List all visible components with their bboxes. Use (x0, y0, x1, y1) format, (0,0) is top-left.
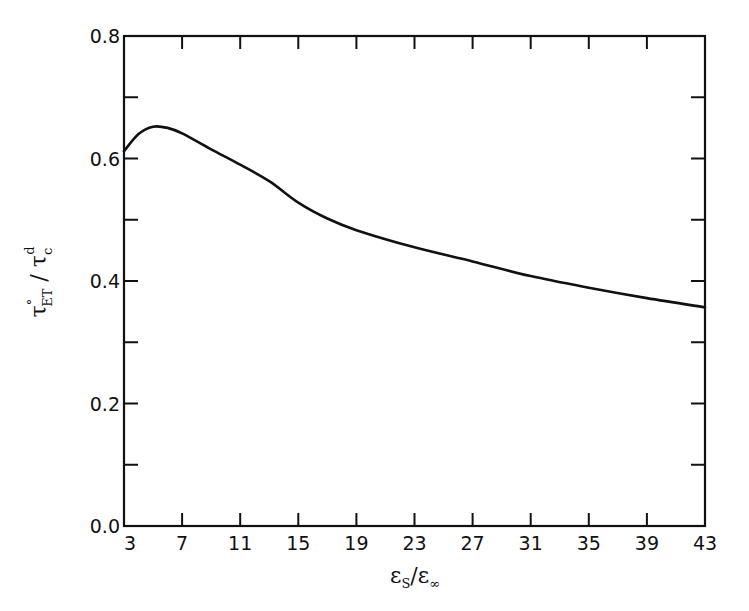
x-tick-label: 11 (228, 532, 252, 554)
x-tick-label: 31 (519, 532, 543, 554)
y-tick-label: 0.2 (90, 393, 120, 415)
x-tick-label: 39 (635, 532, 659, 554)
x-tick-label: 19 (344, 532, 368, 554)
data-curve (124, 126, 705, 307)
y-tick-label: 0.6 (90, 148, 120, 170)
x-tick-label: 3 (124, 532, 136, 554)
x-axis-label: εS/ε∞ (390, 563, 440, 591)
y-tick-label: 0.8 (90, 25, 120, 47)
y-tick-label: 0.0 (90, 515, 120, 537)
series-line (124, 126, 705, 307)
y-axis-label: τ°ET / τcd (22, 246, 55, 317)
y-tick-label: 0.4 (90, 270, 120, 292)
x-tick-label: 27 (461, 532, 485, 554)
x-tick-label: 7 (176, 532, 188, 554)
x-tick-label: 23 (402, 532, 426, 554)
x-tick-label: 15 (286, 532, 310, 554)
plot-border (124, 36, 705, 526)
plot-frame (124, 36, 705, 526)
x-tick-label: 35 (577, 532, 601, 554)
y-axis-ticks: 0.00.20.40.60.8 (90, 25, 705, 537)
line-chart: 37111519232731353943 0.00.20.40.60.8 εS/… (0, 0, 749, 611)
x-tick-label: 43 (693, 532, 717, 554)
